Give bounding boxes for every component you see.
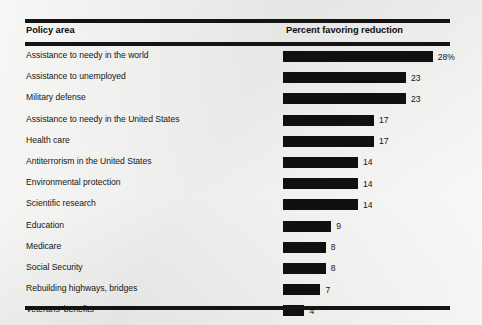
chart-row: Environmental protection14: [0, 176, 482, 197]
chart-row: Medicare8: [0, 240, 482, 261]
chart-row: Assistance to unemployed23: [0, 70, 482, 91]
bar-category-label: Medicare: [26, 241, 61, 251]
bar-value-label: 17: [379, 115, 389, 125]
bar: [283, 93, 406, 104]
bar-category-label: Health care: [26, 135, 70, 145]
bottom-rule: [25, 306, 450, 310]
bar-rows-container: Assistance to needy in the world28%Assis…: [0, 49, 482, 324]
bar-value-label: 8: [331, 242, 336, 252]
bar: [283, 178, 358, 189]
bar-value-label: 23: [411, 73, 421, 83]
chart-row: Assistance to needy in the United States…: [0, 113, 482, 134]
bar-wrapper: 8: [283, 241, 336, 254]
bar: [283, 284, 320, 295]
bar-category-label: Education: [26, 220, 64, 230]
header-rule: [25, 42, 450, 46]
bar-wrapper: 14: [283, 177, 372, 190]
chart-row: Military defense23: [0, 91, 482, 112]
bar-category-label: Social Security: [26, 262, 83, 272]
column-header-percent: Percent favoring reduction: [286, 25, 403, 35]
bar-category-label: Assistance to needy in the world: [26, 50, 149, 60]
bar-wrapper: 7: [283, 283, 330, 296]
bar-wrapper: 17: [283, 135, 388, 148]
chart-row: Antiterrorism in the United States14: [0, 155, 482, 176]
column-header-policy-area: Policy area: [26, 25, 75, 35]
chart-row: Scientific research14: [0, 197, 482, 218]
bar-category-label: Environmental protection: [26, 177, 121, 187]
bar-value-label: 17: [379, 136, 389, 146]
bar-wrapper: 17: [283, 114, 388, 127]
bar-category-label: Rebuilding highways, bridges: [26, 283, 137, 293]
bar-value-label: 8: [331, 263, 336, 273]
bar-value-label: 9: [336, 221, 341, 231]
bar-value-label: 14: [363, 157, 373, 167]
bar-value-label: 14: [363, 179, 373, 189]
bar-value-label: 14: [363, 200, 373, 210]
bar-value-label: 28%: [438, 52, 455, 62]
bar-value-label: 23: [411, 94, 421, 104]
chart-row: Education9: [0, 219, 482, 240]
chart-row: Rebuilding highways, bridges7: [0, 282, 482, 303]
bar-wrapper: 28%: [283, 50, 455, 63]
bar-value-label: 7: [325, 285, 330, 295]
bar-category-label: Scientific research: [26, 198, 96, 208]
top-rule: [25, 19, 450, 23]
bar: [283, 72, 406, 83]
bar: [283, 157, 358, 168]
bar-category-label: Antiterrorism in the United States: [26, 156, 151, 166]
bar-wrapper: 14: [283, 156, 372, 169]
chart-row: Assistance to needy in the world28%: [0, 49, 482, 70]
bar: [283, 136, 374, 147]
bar-wrapper: 8: [283, 262, 336, 275]
bar: [283, 199, 358, 210]
chart-row: Health care17: [0, 134, 482, 155]
bar: [283, 242, 326, 253]
chart-figure: Policy area Percent favoring reduction A…: [0, 0, 482, 325]
bar-category-label: Military defense: [26, 92, 86, 102]
bar-category-label: Assistance to unemployed: [26, 71, 126, 81]
table-header-row: Policy area Percent favoring reduction: [0, 25, 482, 40]
bar: [283, 51, 433, 62]
bar: [283, 263, 326, 274]
bar-wrapper: 14: [283, 198, 372, 211]
bar: [283, 221, 331, 232]
bar-wrapper: 23: [283, 92, 421, 105]
bar-wrapper: 23: [283, 71, 421, 84]
chart-row: Social Security8: [0, 261, 482, 282]
bar-category-label: Assistance to needy in the United States: [26, 114, 180, 124]
bar: [283, 115, 374, 126]
bar-wrapper: 9: [283, 220, 341, 233]
